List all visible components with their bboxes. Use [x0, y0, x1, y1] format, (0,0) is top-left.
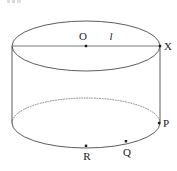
point-label-P: P — [163, 117, 169, 129]
point-marker-Q — [125, 140, 127, 142]
bottom-circle-hidden-arc — [12, 98, 160, 123]
point-label-Q: Q — [123, 146, 131, 158]
point-marker-R — [85, 145, 87, 147]
segment-label-l: l — [109, 30, 112, 42]
point-label-X: X — [164, 40, 172, 52]
point-label-R: R — [83, 150, 91, 162]
point-marker-P — [158, 122, 160, 124]
bottom-circle-front-arc — [12, 123, 160, 148]
point-marker-O — [85, 45, 87, 47]
cylinder-figure: O l X P Q R — [0, 0, 177, 171]
point-marker-X — [159, 45, 161, 47]
cylinder-diagram-canvas: O l X P Q R — [0, 0, 177, 171]
point-label-O: O — [79, 30, 87, 42]
